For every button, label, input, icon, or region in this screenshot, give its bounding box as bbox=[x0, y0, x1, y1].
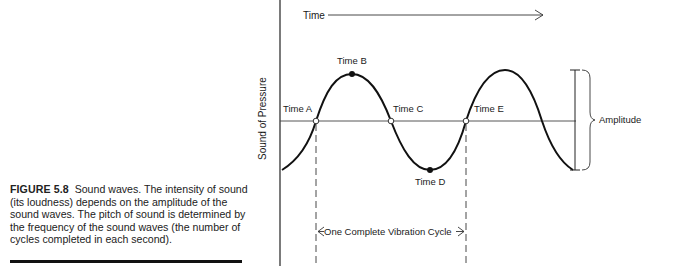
point-a-label: Time A bbox=[283, 103, 313, 114]
point-e-marker bbox=[463, 118, 469, 124]
point-d-label: Time D bbox=[415, 176, 445, 187]
time-axis-label: Time bbox=[303, 10, 325, 21]
y-axis-label: Sound of Pressure bbox=[257, 77, 268, 160]
point-c-label: Time C bbox=[393, 103, 423, 114]
sound-wave-curve bbox=[282, 70, 573, 170]
point-e-label: Time E bbox=[474, 103, 504, 114]
caption-rule bbox=[10, 260, 242, 263]
amplitude-label: Amplitude bbox=[599, 114, 641, 125]
point-a-marker bbox=[313, 118, 319, 124]
amplitude-brace bbox=[582, 70, 595, 170]
cycle-label: One Complete Vibration Cycle bbox=[324, 226, 452, 237]
point-b-marker bbox=[349, 71, 355, 77]
point-b-label: Time B bbox=[337, 55, 367, 66]
point-d-marker bbox=[427, 167, 433, 173]
figure-caption: FIGURE 5.8 Sound waves. The intensity of… bbox=[10, 183, 250, 246]
figure-number: FIGURE 5.8 bbox=[10, 183, 69, 195]
point-c-marker bbox=[388, 118, 394, 124]
